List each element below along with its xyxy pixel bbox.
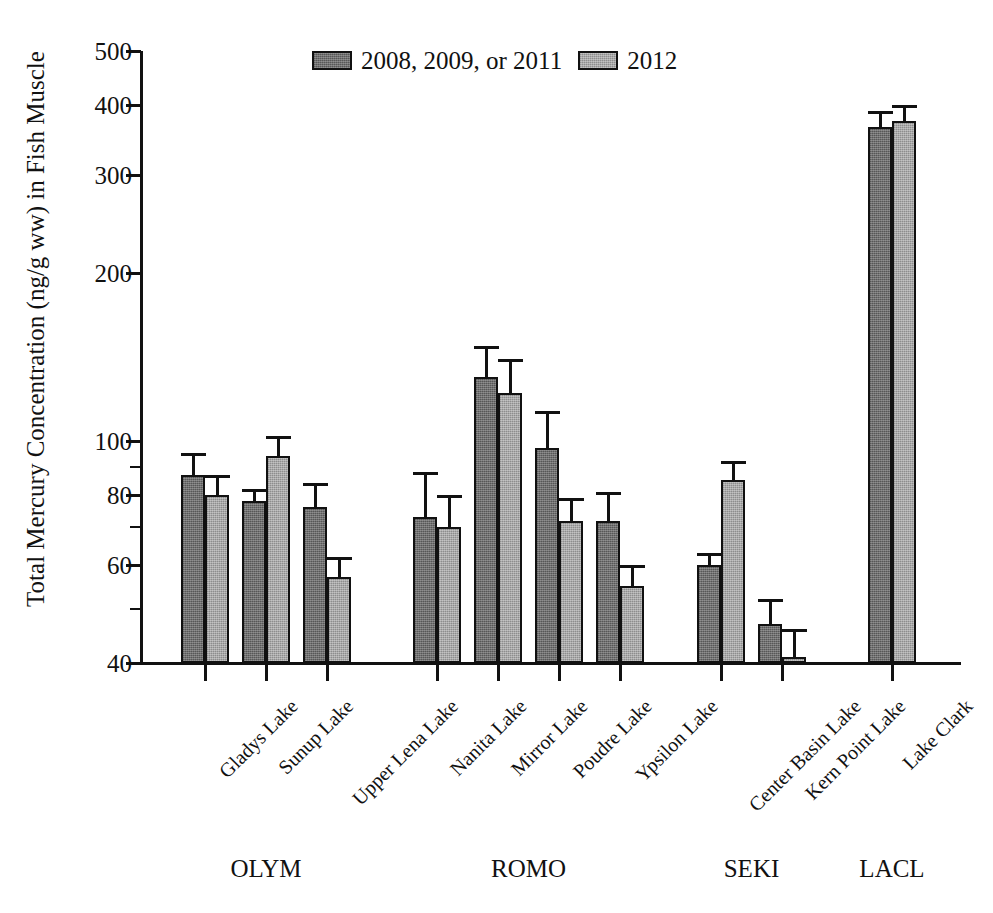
y-tick-mark-minor <box>130 526 141 528</box>
error-bar-stem <box>631 565 634 586</box>
bar-series2 <box>205 495 229 663</box>
error-bar <box>327 557 351 577</box>
error-bar-cap <box>498 359 523 362</box>
bar-series1 <box>413 517 437 663</box>
error-bar <box>474 346 498 377</box>
error-bar-cap <box>474 346 499 349</box>
error-bar-cap <box>327 557 352 560</box>
error-bar-stem <box>509 359 512 392</box>
bar-series1 <box>697 565 721 663</box>
error-bar <box>892 105 916 121</box>
error-bar-cap <box>242 489 267 492</box>
error-bar-cap <box>758 599 783 602</box>
error-bar-cap <box>413 472 438 475</box>
bar-series2 <box>498 393 522 663</box>
error-bar-cap <box>620 565 645 568</box>
error-bar-cap <box>782 629 807 632</box>
error-bar-cap <box>303 483 328 486</box>
error-bar-stem <box>485 346 488 377</box>
x-tick-mark <box>326 665 329 681</box>
y-tick-mark <box>126 104 141 107</box>
x-tick-mark <box>497 665 500 681</box>
x-tick-mark <box>781 665 784 681</box>
bar-series2 <box>266 456 290 663</box>
group-label-seki: SEKI <box>724 855 780 883</box>
y-tick-mark <box>126 272 141 275</box>
error-bar-stem <box>192 453 195 474</box>
error-bar <box>181 453 205 474</box>
y-tick-mark <box>126 440 141 443</box>
error-bar-cap <box>697 553 722 556</box>
error-bar-cap <box>892 105 917 108</box>
y-tick-mark <box>126 174 141 177</box>
plot-area <box>141 51 961 663</box>
x-category-label: Lake Clark <box>898 695 977 774</box>
bar-series2 <box>559 521 583 663</box>
bar-series1 <box>474 377 498 663</box>
y-axis-ticks: 500400300200100806040 <box>40 51 132 663</box>
bar-series1 <box>535 448 559 663</box>
x-tick-mark <box>891 665 894 681</box>
bar-series1 <box>868 127 892 663</box>
error-bar-cap <box>205 475 230 478</box>
bar-series1 <box>303 507 327 663</box>
error-bar-cap <box>535 411 560 414</box>
error-bar <box>620 565 644 586</box>
error-bar-cap <box>181 453 206 456</box>
bar-series2 <box>327 577 351 663</box>
group-label-olym: OLYM <box>230 855 301 883</box>
group-label-lacl: LACL <box>859 855 924 883</box>
error-bar <box>498 359 522 392</box>
error-bar-stem <box>546 411 549 448</box>
error-bar-cap <box>559 498 584 501</box>
error-bar-cap <box>721 461 746 464</box>
bar-series1 <box>596 521 620 663</box>
error-bar-stem <box>216 475 219 495</box>
error-bar <box>266 436 290 456</box>
error-bar-cap <box>437 495 462 498</box>
error-bar-stem <box>448 495 451 527</box>
error-bar <box>205 475 229 495</box>
y-tick-mark <box>126 50 141 53</box>
error-bar-stem <box>314 483 317 507</box>
error-bar-cap <box>868 111 893 114</box>
bar-series2 <box>782 657 806 663</box>
y-tick-mark-minor <box>130 608 141 610</box>
bar-series2 <box>721 480 745 663</box>
y-tick-mark <box>126 564 141 567</box>
error-bar <box>721 461 745 480</box>
error-bar-stem <box>424 472 427 517</box>
error-bar-stem <box>793 629 796 657</box>
error-bar <box>535 411 559 448</box>
error-bar <box>437 495 461 527</box>
error-bar <box>868 111 892 127</box>
x-tick-mark <box>436 665 439 681</box>
group-label-romo: ROMO <box>491 855 566 883</box>
error-bar <box>303 483 327 507</box>
x-tick-mark <box>720 665 723 681</box>
error-bar-stem <box>338 557 341 577</box>
error-bar <box>413 472 437 517</box>
error-bar-stem <box>607 492 610 521</box>
bar-series1 <box>181 475 205 663</box>
x-tick-mark <box>265 665 268 681</box>
error-bar-cap <box>596 492 621 495</box>
error-bar-cap <box>266 436 291 439</box>
bar-series2 <box>620 586 644 663</box>
error-bar-stem <box>769 599 772 623</box>
y-tick-mark <box>126 494 141 497</box>
error-bar <box>758 599 782 623</box>
x-category-label: Upper Lena Lake <box>348 695 463 810</box>
error-bar <box>242 489 266 501</box>
error-bar <box>559 498 583 520</box>
error-bar <box>596 492 620 521</box>
mercury-bar-chart: Total Mercury Concentration (ng/g ww) in… <box>0 0 993 913</box>
y-tick-mark <box>126 662 141 665</box>
error-bar <box>697 553 721 565</box>
bar-series1 <box>758 624 782 663</box>
x-tick-mark <box>558 665 561 681</box>
error-bar-stem <box>570 498 573 520</box>
y-tick-mark-minor <box>130 466 141 468</box>
bar-series1 <box>242 501 266 663</box>
x-tick-mark <box>204 665 207 681</box>
